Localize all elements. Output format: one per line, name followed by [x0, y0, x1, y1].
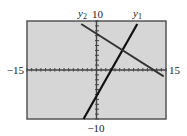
- x-max-label: 15: [169, 64, 181, 76]
- y1-label: y1: [132, 7, 142, 21]
- y-min-label: −10: [87, 122, 105, 134]
- x-min-label: −15: [7, 64, 25, 76]
- y-max-label: 10: [92, 8, 104, 20]
- chart: −15 15 10 −10 y2 y1: [0, 0, 187, 136]
- y2-label: y2: [77, 7, 87, 21]
